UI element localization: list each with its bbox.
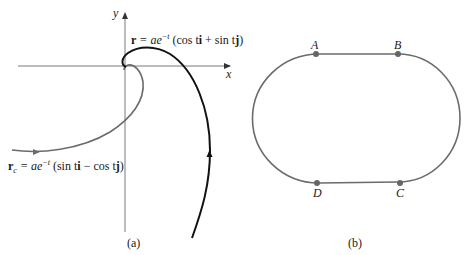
point-d-label: D — [312, 186, 322, 200]
race-track — [252, 54, 460, 183]
figure-a: y x r = ae−t (cos ti + sin tj) rc = ae−t… — [8, 6, 243, 250]
figure-a-caption: (a) — [127, 236, 140, 250]
figure-canvas: y x r = ae−t (cos ti + sin tj) rc = ae−t… — [0, 0, 465, 255]
point-b-label: B — [394, 38, 402, 52]
curve-rc-arrow-icon — [33, 149, 40, 155]
curve-rc-label: rc = ae−t (sin ti − cos tj) — [8, 158, 124, 175]
curve-rc — [12, 65, 143, 152]
point-c-label: C — [396, 186, 405, 200]
x-axis-label: x — [225, 67, 232, 81]
y-axis-label: y — [112, 6, 119, 20]
figure-b-caption: (b) — [348, 236, 362, 250]
curve-r-arrow-icon — [207, 150, 213, 157]
curve-r — [122, 48, 210, 239]
y-axis-arrow-icon — [122, 12, 128, 19]
figure-b: A B C D (b) — [252, 38, 460, 250]
curve-r-label: r = ae−t (cos ti + sin tj) — [131, 32, 243, 47]
point-a-label: A — [310, 38, 319, 52]
